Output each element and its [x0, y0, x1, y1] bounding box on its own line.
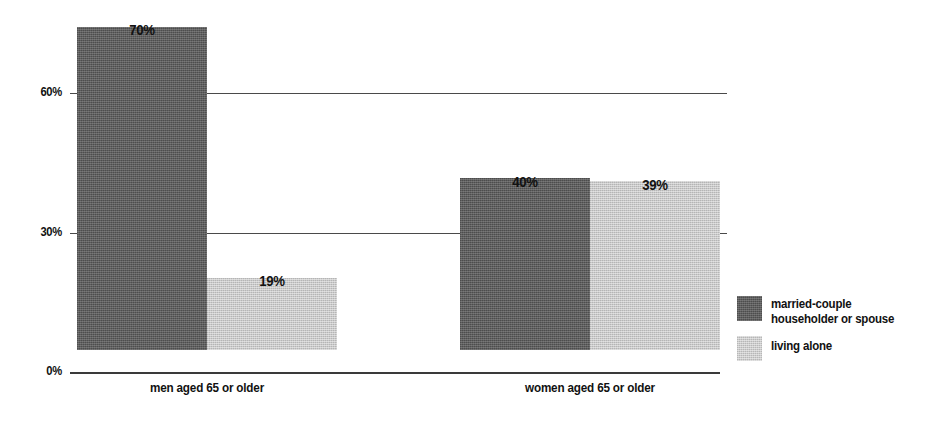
bar-value-men-living-alone: 19% [215, 272, 329, 289]
plot-area: 60% 30% 0% 70% 19% 40% 39% men aged 65 o… [0, 0, 760, 400]
y-tick-label-30: 30% [9, 224, 62, 239]
y-tick-label-60: 60% [9, 84, 62, 99]
legend-item-married-couple[interactable]: married-couple householder or spouse [737, 296, 927, 327]
legend-swatch-dark-icon [737, 296, 762, 321]
bar-value-women-married-couple: 40% [468, 173, 582, 190]
bar-value-men-married-couple: 70% [85, 21, 199, 38]
bar-chart: 60% 30% 0% 70% 19% 40% 39% men aged 65 o… [0, 0, 928, 423]
legend-swatch-light-icon [737, 336, 762, 361]
category-label-men: men aged 65 or older [90, 380, 324, 395]
y-tick-label-0: 0% [9, 363, 62, 378]
bar-women-living-alone[interactable] [590, 181, 720, 350]
bar-men-married-couple[interactable] [77, 27, 207, 350]
legend-label-married-couple: married-couple householder or spouse [771, 296, 894, 327]
legend-item-living-alone[interactable]: living alone [737, 336, 927, 361]
legend: married-couple householder or spouse liv… [737, 296, 927, 370]
bar-women-married-couple[interactable] [460, 178, 590, 350]
bar-value-women-living-alone: 39% [598, 176, 712, 193]
axis-baseline [70, 372, 720, 374]
legend-label-living-alone: living alone [771, 336, 832, 354]
category-label-women: women aged 65 or older [473, 380, 707, 395]
